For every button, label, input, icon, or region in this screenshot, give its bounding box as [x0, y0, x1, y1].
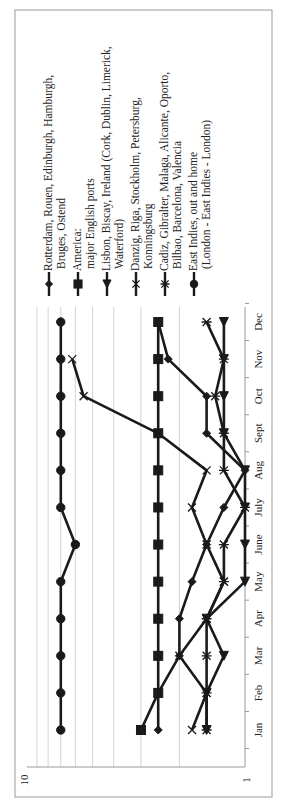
- legend-swatch-icon: [42, 271, 56, 297]
- legend-item: America:major English ports: [71, 17, 97, 297]
- diamond-marker-icon: [175, 615, 183, 623]
- triangle-marker-icon: [219, 318, 228, 327]
- legend-swatch-icon: [100, 271, 114, 297]
- x-tick-label: Oct: [252, 388, 264, 404]
- series-line: [207, 322, 245, 730]
- series-triangle: [202, 318, 249, 735]
- circle-marker-icon: [71, 540, 79, 548]
- x-tick-label: Jan: [252, 722, 264, 737]
- legend-label: Cadiz, Gibralter, Malaga, Alicante, Opor…: [158, 72, 184, 271]
- x-tick-label: Mar: [252, 646, 264, 665]
- circle-marker-icon: [57, 355, 65, 363]
- series-line: [158, 322, 245, 730]
- legend-label: East Indies, out and home(London - East …: [187, 120, 213, 271]
- series-lines: [57, 318, 250, 735]
- x-tick-label: Aug: [252, 460, 264, 479]
- diamond-marker-icon: [154, 726, 162, 734]
- legend-label: America:major English ports: [71, 178, 97, 271]
- rotated-chart: JanFebMarAprMayJuneJulyAugSeptOctNovDec …: [0, 0, 289, 812]
- legend-label-line: Danzig, Riga, Stockholm, Petersburg,: [129, 97, 142, 271]
- circle-marker-icon: [57, 318, 65, 326]
- circle-marker-icon: [57, 466, 65, 474]
- x-tick-label: Apr: [252, 610, 264, 627]
- legend-item: Cadiz, Gibralter, Malaga, Alicante, Opor…: [158, 17, 184, 297]
- square-marker-icon: [154, 688, 163, 697]
- triangle-marker-icon: [103, 280, 111, 288]
- legend-label: Lisbon, Biscay, Ireland (Cork, Dublin, L…: [100, 46, 126, 271]
- triangle-marker-icon: [219, 651, 228, 660]
- square-marker-icon: [154, 355, 163, 364]
- diamond-marker-icon: [45, 280, 52, 287]
- legend-label-line: major English ports: [84, 178, 97, 271]
- legend-label-line: (London - East Indies - London): [200, 120, 213, 271]
- legend-swatch-icon: [158, 271, 172, 297]
- circle-marker-icon: [57, 429, 65, 437]
- legend-label-line: Cadiz, Gibralter, Malaga, Alicante, Opor…: [158, 72, 171, 271]
- circle-marker-icon: [57, 503, 65, 511]
- legend-label-line: Bilbao, Barcelona, Valencia: [171, 72, 184, 271]
- square-marker-icon: [154, 651, 163, 660]
- legend-label-line: Rotterdam, Rouen, Edinburgh, Hamburgh,: [42, 75, 55, 271]
- legend-item: East Indies, out and home(London - East …: [187, 17, 213, 297]
- legend-swatch-icon: [71, 271, 85, 297]
- circle-marker-icon: [57, 392, 65, 400]
- legend-label: Rotterdam, Rouen, Edinburgh, Hamburgh,Br…: [42, 75, 68, 271]
- legend-label-line: Konningsburg: [142, 97, 155, 271]
- square-marker-icon: [74, 280, 82, 288]
- chart-legend: Rotterdam, Rouen, Edinburgh, Hamburgh,Br…: [42, 17, 216, 297]
- legend-label-line: America:: [71, 178, 84, 271]
- legend-swatch-icon: [129, 271, 143, 297]
- x-tick-label: Dec: [252, 313, 264, 331]
- series-square: [136, 318, 162, 735]
- series-line: [141, 322, 158, 730]
- legend-item: Lisbon, Biscay, Ireland (Cork, Dublin, L…: [100, 17, 126, 297]
- legend-label: Danzig, Riga, Stockholm, Petersburg,Konn…: [129, 97, 155, 271]
- circle-marker-icon: [57, 615, 65, 623]
- square-marker-icon: [154, 577, 163, 586]
- triangle-marker-icon: [219, 392, 228, 401]
- series-line: [72, 359, 224, 730]
- series-line: [61, 322, 76, 730]
- circle-marker-icon: [57, 577, 65, 585]
- legend-item: Danzig, Riga, Stockholm, Petersburg,Konn…: [129, 17, 155, 297]
- legend-item: Rotterdam, Rouen, Edinburgh, Hamburgh,Br…: [42, 17, 68, 297]
- x-tick-label: Feb: [252, 684, 264, 701]
- x-tick-label: May: [252, 571, 264, 592]
- y-tick-1: 1: [240, 777, 252, 783]
- circle-marker-icon: [190, 280, 198, 288]
- circle-marker-icon: [57, 726, 65, 734]
- legend-label-line: East Indies, out and home: [187, 120, 200, 271]
- diamond-marker-icon: [188, 578, 196, 586]
- series-circle: [57, 318, 80, 734]
- y-tick-10: 10: [18, 774, 30, 786]
- square-marker-icon: [154, 466, 163, 475]
- legend-swatch-icon: [187, 271, 201, 297]
- x-tick-label: Sept: [252, 423, 264, 443]
- x-tick-label: Nov: [252, 349, 264, 368]
- square-marker-icon: [154, 540, 163, 549]
- circle-marker-icon: [57, 652, 65, 660]
- square-marker-icon: [154, 503, 163, 512]
- series-line: [207, 322, 245, 730]
- triangle-marker-icon: [241, 540, 250, 549]
- square-marker-icon: [154, 614, 163, 623]
- square-marker-icon: [154, 318, 163, 327]
- square-marker-icon: [154, 392, 163, 401]
- legend-label-line: Lisbon, Biscay, Ireland (Cork, Dublin, L…: [100, 46, 113, 271]
- circle-marker-icon: [57, 689, 65, 697]
- x-tick-label: June: [252, 534, 264, 554]
- legend-label-line: Waterford): [113, 46, 126, 271]
- x-tick-label: July: [252, 498, 264, 517]
- legend-label-line: Bruges, Ostend: [55, 75, 68, 271]
- series-star: [202, 318, 250, 734]
- square-marker-icon: [136, 726, 145, 735]
